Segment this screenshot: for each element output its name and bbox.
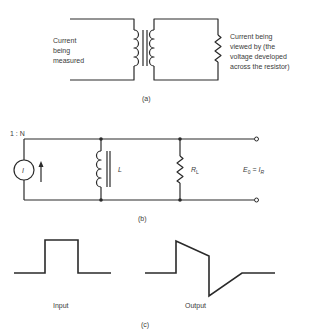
- primary-coil-icon: [134, 30, 139, 66]
- left-label-line-3: measured: [53, 57, 84, 64]
- primary-bottom-wire: [70, 66, 134, 80]
- part-a-transformer-circuit: Current being measured Current being vie…: [53, 19, 290, 103]
- left-label-line-1: Current: [53, 37, 76, 44]
- secondary-coil-icon: [150, 30, 155, 66]
- secondary-top-wire: [154, 19, 218, 35]
- current-direction-arrow-icon: [39, 161, 44, 182]
- figure-canvas: Current being measured Current being vie…: [0, 0, 310, 336]
- right-label-line-2: viewed by (the: [230, 43, 275, 51]
- junction-dot: [99, 137, 103, 141]
- input-label: Input: [53, 302, 69, 310]
- resistor-icon: [215, 35, 221, 62]
- output-waveform: [145, 241, 275, 296]
- right-label-line-4: across the resistor): [230, 63, 290, 71]
- resistor-label: RL: [191, 166, 199, 175]
- caption-a: (a): [142, 95, 151, 103]
- caption-b: (b): [138, 215, 147, 223]
- part-b-equivalent-circuit: 1 : N I L RL E0 = IR: [10, 130, 264, 223]
- output-terminal-top: [255, 137, 259, 141]
- secondary-bottom-wire: [154, 62, 218, 80]
- turns-ratio-label: 1 : N: [10, 130, 25, 137]
- caption-c: (c): [141, 321, 149, 329]
- output-equation: E0 = IR: [243, 166, 264, 175]
- part-c-waveforms: Input Output (c): [14, 240, 275, 329]
- inductor-label: L: [118, 166, 122, 173]
- primary-top-wire: [70, 19, 134, 30]
- junction-dot: [178, 137, 182, 141]
- junction-dot: [99, 198, 103, 202]
- output-label: Output: [185, 302, 206, 310]
- right-label-line-3: voltage developed: [230, 53, 287, 61]
- right-label-line-1: Current being: [230, 33, 273, 41]
- current-source-label: I: [22, 167, 24, 174]
- output-terminal-bottom: [255, 198, 259, 202]
- inductor-coil-icon: [97, 151, 102, 187]
- input-pulse-waveform: [14, 240, 111, 273]
- left-label-line-2: being: [53, 47, 70, 55]
- junction-dot: [178, 198, 182, 202]
- load-resistor-icon: [177, 156, 183, 183]
- current-source-icon: [14, 160, 34, 180]
